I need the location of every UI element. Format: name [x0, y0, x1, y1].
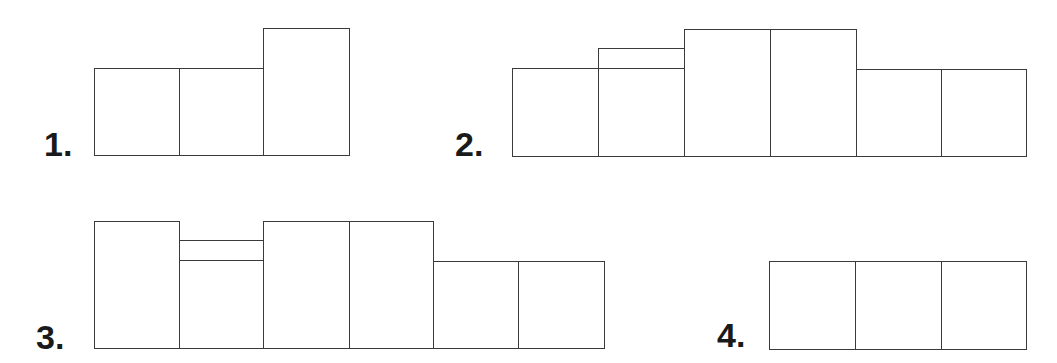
figure-label-2: 2.: [455, 127, 483, 161]
block-rectangle: [518, 261, 605, 349]
block-rectangle: [94, 221, 180, 349]
block-rectangle: [94, 68, 180, 156]
figure-label-4: 4.: [717, 318, 745, 352]
block-rectangle: [179, 68, 264, 156]
block-rectangle: [598, 48, 685, 69]
block-rectangle: [856, 69, 942, 157]
block-rectangle: [769, 261, 856, 350]
block-rectangle: [263, 28, 350, 156]
block-rectangle: [263, 221, 350, 349]
block-rectangle: [349, 221, 434, 349]
block-rectangle: [179, 240, 264, 261]
block-rectangle: [598, 68, 685, 157]
block-rectangle: [179, 260, 264, 349]
figure-label-1: 1.: [44, 127, 72, 161]
block-rectangle: [512, 68, 599, 157]
figure-label-3: 3.: [36, 320, 64, 354]
block-rectangle: [855, 261, 942, 350]
block-rectangle: [770, 29, 857, 157]
block-rectangle: [684, 29, 771, 157]
block-rectangle: [941, 69, 1027, 157]
block-rectangle: [941, 261, 1027, 350]
block-rectangle: [433, 261, 519, 349]
